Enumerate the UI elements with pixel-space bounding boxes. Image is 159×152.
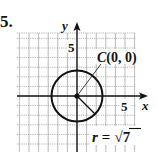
x-axis xyxy=(17,93,148,100)
center-label-coords: (0, 0) xyxy=(106,50,137,66)
radius-label-eq: = xyxy=(102,129,111,145)
circle-graph: 5. y 5 5 x C(0, 0) r=√7 xyxy=(0,0,159,152)
radius-label-lhs: r xyxy=(92,129,98,145)
x-axis-label: x xyxy=(141,98,149,113)
y-axis-label: y xyxy=(60,18,68,33)
x-tick-label: 5 xyxy=(121,99,128,114)
problem-number: 5. xyxy=(0,12,13,31)
y-tick-label: 5 xyxy=(68,40,75,55)
radius-segment xyxy=(77,96,95,114)
center-label: C(0, 0) xyxy=(97,50,137,66)
radius-label-value: 7 xyxy=(123,129,131,145)
